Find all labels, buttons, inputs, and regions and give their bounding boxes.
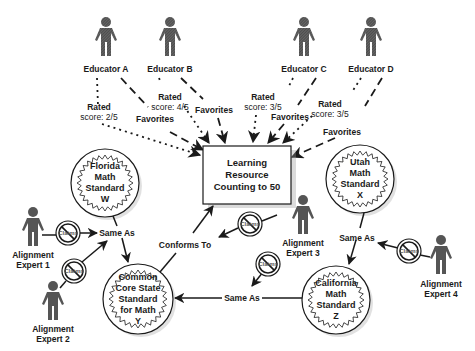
conforms-to-label: Conforms To (159, 240, 211, 250)
std-line: Standard (85, 183, 124, 194)
rating-score: score: 3/5 (244, 102, 281, 112)
std-line: Math (340, 168, 379, 179)
alignment-expert-4-person-icon (430, 235, 452, 274)
california-standard-label: California Math Standard Z (315, 278, 357, 322)
alignment-expert-2-label: Alignment Expert 2 (32, 324, 74, 344)
std-line: Math (85, 172, 124, 183)
same-as-utah-california: Same As (339, 233, 375, 243)
resource-line-1: Learning (214, 157, 281, 169)
std-line: Z (315, 311, 357, 322)
educator-a-label: Educator A (83, 64, 128, 74)
alignment-expert-1-label: Alignment Expert 1 (12, 250, 54, 270)
rating-label: Rated (244, 92, 281, 102)
educator-a-rating: Rated score: 2/5 (80, 102, 117, 122)
expert-line: Alignment (282, 238, 324, 248)
std-line: Florida (85, 161, 124, 172)
resource-line-2: Resource (214, 169, 281, 181)
same-as-california-common-core: Same As (224, 293, 260, 303)
rating-label: Rated (80, 102, 117, 112)
std-line: Common (115, 272, 160, 283)
common-core-standard-label: Common Core State Standard for Math Y (115, 272, 160, 327)
educator-b-favorites-label: Favorites (195, 105, 233, 115)
educator-d-label: Educator D (348, 64, 393, 74)
educator-d-person-icon (360, 17, 382, 56)
alignment-expert-3-label: Alignment Expert 3 (282, 238, 324, 258)
expert-line: Alignment (32, 324, 74, 334)
educator-c-rating: Rated score: 3/5 (244, 92, 281, 112)
claims-text: Claims (240, 219, 260, 229)
expert-line: Expert 4 (420, 289, 462, 299)
educator-d-favorites-label: Favorites (323, 127, 361, 137)
utah-standard-label: Utah Math Standard X (340, 157, 379, 201)
std-line: Standard (315, 300, 357, 311)
std-line: Standard (115, 294, 160, 305)
claims-text: Claims (64, 266, 84, 276)
rating-score: score: 4/5 (151, 102, 188, 112)
educator-b-person-icon (159, 17, 181, 56)
std-line: Utah (340, 157, 379, 168)
same-as-florida-common-core: Same As (99, 228, 135, 238)
claims-text: Claims (399, 246, 419, 256)
std-line: Core State (115, 283, 160, 294)
std-line: Math (315, 289, 357, 300)
alignment-expert-1-person-icon (22, 207, 44, 246)
alignment-diagram: Educator A Educator B Educator C Educato… (0, 0, 475, 351)
educator-c-person-icon (293, 17, 315, 56)
rating-score: score: 3/5 (311, 109, 348, 119)
alignment-expert-4-label: Alignment Expert 4 (420, 279, 462, 299)
expert-line: Expert 2 (32, 334, 74, 344)
educator-a-favorites-label: Favorites (136, 114, 174, 124)
rating-label: Rated (151, 92, 188, 102)
educator-d-rating: Rated score: 3/5 (311, 99, 348, 119)
educator-c-favorites-label: Favorites (271, 112, 309, 122)
claims-text: Claims (258, 259, 278, 269)
std-line: Standard (340, 179, 379, 190)
std-line: Y (115, 316, 160, 327)
expert-line: Alignment (420, 279, 462, 289)
std-line: California (315, 278, 357, 289)
expert-line: Expert 3 (282, 248, 324, 258)
learning-resource-title: Learning Resource Counting to 50 (214, 157, 281, 193)
std-line: X (340, 190, 379, 201)
educator-a-person-icon (95, 17, 117, 56)
educator-b-label: Educator B (147, 64, 192, 74)
rating-score: score: 2/5 (80, 112, 117, 122)
resource-line-3: Counting to 50 (214, 181, 281, 193)
std-line: for Math (115, 305, 160, 316)
educator-b-rating: Rated score: 4/5 (151, 92, 188, 112)
expert-line: Alignment (12, 250, 54, 260)
florida-standard-label: Florida Math Standard W (85, 161, 124, 205)
expert-line: Expert 1 (12, 260, 54, 270)
educator-c-label: Educator C (281, 64, 326, 74)
rating-label: Rated (311, 99, 348, 109)
claims-text: Claims (58, 228, 78, 238)
std-line: W (85, 194, 124, 205)
